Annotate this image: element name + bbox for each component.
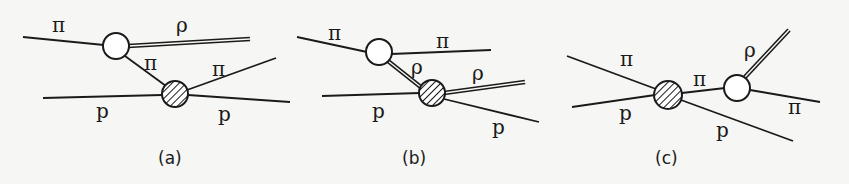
caption-c: (c) [655,148,678,168]
p-out-line [188,95,290,102]
caption-b: (b) [402,148,426,168]
p-out-line [681,100,793,141]
label-p-in: p [96,99,109,123]
label-p-out: p [492,115,505,139]
hatched-blob-icon [419,80,445,106]
panel-c: π p π ρ π p (c) [567,30,820,168]
open-vertex-icon [103,33,129,59]
label-pi-in: π [52,13,65,37]
p-in-line [322,93,420,96]
p-in-line [43,95,162,98]
label-pi-exchange: π [144,51,157,75]
open-vertex-icon [366,39,392,65]
diagram-svg: π ρ π π p p (a) π π ρ ρ p p (b) [0,0,849,184]
pi-in-line [23,37,104,45]
label-p-out: p [716,118,729,142]
caption-a: (a) [158,148,182,168]
pi-out-line [750,90,820,102]
p-in-line [572,95,655,107]
label-p-out: p [218,102,231,126]
label-p-in: p [619,101,632,125]
label-pi-out: π [436,29,449,53]
label-pi-exchange: π [693,67,706,91]
label-pi-in: π [620,47,633,71]
open-vertex-icon [724,75,750,101]
pi-out-line [187,58,276,90]
label-rho-out: ρ [472,61,484,85]
label-rho-exchange: ρ [411,55,423,79]
pi-in-line [567,56,656,89]
feynman-diagram-figure: π ρ π π p p (a) π π ρ ρ p p (b) [0,0,849,184]
label-rho-out: ρ [744,38,756,62]
panel-a: π ρ π π p p (a) [23,13,290,168]
hatched-blob-icon [654,81,682,109]
label-pi-in: π [328,21,341,45]
label-pi-out: π [212,57,225,81]
label-rho-out: ρ [176,13,188,37]
label-pi-out: π [788,95,801,119]
hatched-blob-icon [162,81,188,107]
label-p-in: p [372,99,385,123]
panel-b: π π ρ ρ p p (b) [297,21,539,168]
